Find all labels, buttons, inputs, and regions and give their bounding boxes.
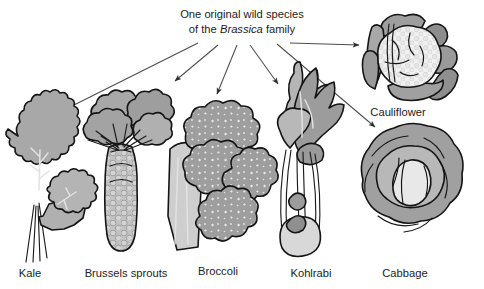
crop-label-cabbage: Cabbage (382, 267, 427, 279)
title-line-1: One original wild species (180, 8, 304, 20)
title-line-2-prefix: of the (189, 23, 220, 35)
crop-label-broccoli: Broccoli (198, 265, 238, 277)
title-line-2: of the Brassica family (189, 23, 296, 35)
crop-label-kale: Kale (19, 267, 41, 279)
kohlrabi-leaflet-mid (289, 193, 306, 210)
crop-label-cauliflower: Cauliflower (370, 106, 426, 118)
brassica-diagram: One original wild species of the Brassic… (0, 0, 484, 289)
title-species-name: Brassica (220, 23, 263, 35)
crop-label-brussels-sprouts: Brussels sprouts (85, 267, 168, 279)
title-line-2-suffix: family (263, 23, 296, 35)
diagram-canvas: One original wild species of the Brassic… (0, 0, 484, 289)
brussels-sprouts-stalk (105, 144, 138, 251)
crop-label-kohlrabi: Kohlrabi (290, 267, 331, 279)
